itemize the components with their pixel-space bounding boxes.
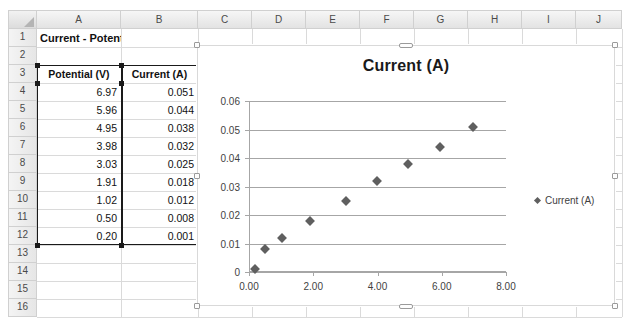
chart-handle[interactable] bbox=[194, 42, 200, 48]
column-header-h[interactable]: H bbox=[468, 10, 522, 29]
row-header-15[interactable]: 15 bbox=[8, 281, 37, 299]
cell-a1-title[interactable]: Current - Potential Data bbox=[37, 29, 121, 47]
chart-handle[interactable] bbox=[612, 42, 618, 48]
cell-b9-current[interactable]: 0.018 bbox=[121, 173, 198, 191]
selection-handle[interactable] bbox=[119, 81, 124, 86]
cell-a9-potential[interactable]: 1.91 bbox=[37, 173, 121, 191]
cell-b6-current[interactable]: 0.038 bbox=[121, 119, 198, 137]
chart-gridline bbox=[249, 101, 506, 102]
row-header-16[interactable]: 16 bbox=[8, 299, 37, 317]
y-axis-label: 0.03 bbox=[221, 181, 240, 192]
chart-data-point[interactable] bbox=[260, 244, 270, 254]
chart-data-point[interactable] bbox=[372, 176, 382, 186]
column-header-j[interactable]: J bbox=[576, 10, 622, 29]
x-axis-tick bbox=[378, 272, 379, 276]
cell-b10-current[interactable]: 0.012 bbox=[121, 191, 198, 209]
chart-gridline bbox=[249, 187, 506, 188]
row-header-5[interactable]: 5 bbox=[8, 101, 37, 119]
chart-gridline bbox=[249, 215, 506, 216]
x-axis-label: 4.00 bbox=[368, 281, 387, 292]
chart-title: Current (A) bbox=[198, 57, 614, 75]
cell-a4-potential[interactable]: 6.97 bbox=[37, 83, 121, 101]
grid-line-vertical bbox=[622, 29, 623, 317]
cell-a8-potential[interactable]: 3.03 bbox=[37, 155, 121, 173]
spreadsheet-application: ABCDEFGHIJ 12345678910111213141516 Curre… bbox=[0, 0, 635, 330]
row-header-11[interactable]: 11 bbox=[8, 209, 37, 227]
column-header-i[interactable]: I bbox=[522, 10, 576, 29]
column-header-d[interactable]: D bbox=[252, 10, 306, 29]
chart-handle[interactable] bbox=[194, 303, 200, 309]
row-header-6[interactable]: 6 bbox=[8, 119, 37, 137]
x-axis-tick bbox=[442, 272, 443, 276]
chart-legend[interactable]: Current (A) bbox=[535, 194, 594, 206]
x-axis-label: 2.00 bbox=[304, 281, 323, 292]
column-header-a[interactable]: A bbox=[37, 10, 121, 29]
row-header-4[interactable]: 4 bbox=[8, 83, 37, 101]
cell-b11-current[interactable]: 0.008 bbox=[121, 209, 198, 227]
cell-a7-potential[interactable]: 3.98 bbox=[37, 137, 121, 155]
cell-b7-current[interactable]: 0.032 bbox=[121, 137, 198, 155]
chart-data-point[interactable] bbox=[403, 159, 413, 169]
y-axis-line bbox=[249, 101, 250, 272]
x-axis-tick bbox=[249, 272, 250, 276]
chart-handle[interactable] bbox=[612, 303, 618, 309]
cell-a12-potential[interactable]: 0.20 bbox=[37, 227, 121, 245]
y-axis-label: 0.04 bbox=[221, 153, 240, 164]
y-axis-label: 0.06 bbox=[221, 96, 240, 107]
cell-b3-header[interactable]: Current (A) bbox=[121, 65, 198, 83]
column-header-f[interactable]: F bbox=[360, 10, 414, 29]
chart-data-point[interactable] bbox=[436, 142, 446, 152]
chart-data-point[interactable] bbox=[305, 216, 315, 226]
x-axis-label: 8.00 bbox=[496, 281, 515, 292]
column-header-e[interactable]: E bbox=[306, 10, 360, 29]
row-header-7[interactable]: 7 bbox=[8, 137, 37, 155]
cell-a6-potential[interactable]: 4.95 bbox=[37, 119, 121, 137]
chart-gridline bbox=[249, 130, 506, 131]
cell-a5-potential[interactable]: 5.96 bbox=[37, 101, 121, 119]
grid-line-horizontal bbox=[37, 317, 622, 318]
cell-a11-potential[interactable]: 0.50 bbox=[37, 209, 121, 227]
chart-handle[interactable] bbox=[194, 173, 200, 179]
row-header-8[interactable]: 8 bbox=[8, 155, 37, 173]
chart-data-point[interactable] bbox=[341, 196, 351, 206]
row-header-13[interactable]: 13 bbox=[8, 245, 37, 263]
legend-label: Current (A) bbox=[545, 195, 594, 206]
selection-handle[interactable] bbox=[35, 81, 40, 86]
selection-handle[interactable] bbox=[119, 243, 124, 248]
cell-b4-current[interactable]: 0.051 bbox=[121, 83, 198, 101]
chart-handle[interactable] bbox=[399, 43, 413, 48]
cell-a3-header[interactable]: Potential (V) bbox=[37, 65, 121, 83]
selection-handle[interactable] bbox=[35, 243, 40, 248]
column-header-row: ABCDEFGHIJ bbox=[8, 10, 622, 29]
chart-gridline bbox=[249, 244, 506, 245]
chart-plot-area: 00.010.020.030.040.050.060.002.004.006.0… bbox=[249, 101, 506, 272]
cell-b5-current[interactable]: 0.044 bbox=[121, 101, 198, 119]
cell-b8-current[interactable]: 0.025 bbox=[121, 155, 198, 173]
row-header-9[interactable]: 9 bbox=[8, 173, 37, 191]
x-axis-tick bbox=[313, 272, 314, 276]
embedded-chart[interactable]: Current (A) 00.010.020.030.040.050.060.0… bbox=[197, 45, 615, 306]
row-header-1[interactable]: 1 bbox=[8, 29, 37, 47]
column-header-g[interactable]: G bbox=[414, 10, 468, 29]
cell-a10-potential[interactable]: 1.02 bbox=[37, 191, 121, 209]
selection-divider bbox=[121, 65, 123, 245]
selection-handle[interactable] bbox=[35, 63, 40, 68]
y-axis-label: 0.05 bbox=[221, 124, 240, 135]
row-header-2[interactable]: 2 bbox=[8, 47, 37, 65]
row-header-10[interactable]: 10 bbox=[8, 191, 37, 209]
chart-gridline bbox=[249, 158, 506, 159]
row-header-14[interactable]: 14 bbox=[8, 263, 37, 281]
row-header-12[interactable]: 12 bbox=[8, 227, 37, 245]
row-header-3[interactable]: 3 bbox=[8, 65, 37, 83]
chart-handle[interactable] bbox=[612, 173, 618, 179]
column-header-c[interactable]: C bbox=[198, 10, 252, 29]
y-axis-label: 0.02 bbox=[221, 210, 240, 221]
chart-data-point[interactable] bbox=[277, 233, 287, 243]
chart-handle[interactable] bbox=[399, 304, 413, 309]
column-header-b[interactable]: B bbox=[121, 10, 198, 29]
selection-handle[interactable] bbox=[119, 63, 124, 68]
cell-b12-current[interactable]: 0.001 bbox=[121, 227, 198, 245]
legend-marker-icon bbox=[534, 197, 541, 204]
x-axis-label: 0.00 bbox=[239, 281, 258, 292]
y-axis-label: 0 bbox=[234, 267, 240, 278]
